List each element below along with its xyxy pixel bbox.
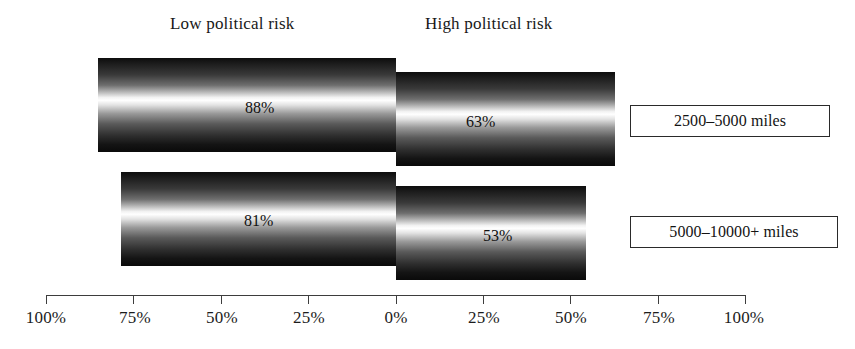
legend-label-2500-5000-miles: 2500–5000 miles xyxy=(630,105,830,137)
column-header-low-political-risk: Low political risk xyxy=(170,14,294,34)
axis-tick-right-50 xyxy=(570,295,571,304)
axis-label-right-25: 25% xyxy=(468,308,500,328)
axis-label-left-50: 50% xyxy=(206,308,238,328)
axis-tick-right-100 xyxy=(745,295,746,304)
axis-label-left-75: 75% xyxy=(119,308,151,328)
bar-value-high-risk-2500-5000: 63% xyxy=(466,113,495,131)
axis-label-center-0: 0% xyxy=(384,308,407,328)
bar-high-risk-2500-5000 xyxy=(396,72,615,166)
axis-label-right-75: 75% xyxy=(643,308,675,328)
axis-tick-left-75 xyxy=(133,295,134,304)
column-header-high-political-risk: High political risk xyxy=(425,14,553,34)
axis-label-right-100: 100% xyxy=(724,308,764,328)
bar-value-low-risk-5000-10000: 81% xyxy=(244,212,273,230)
chart-container: Low political risk High political risk 8… xyxy=(0,0,855,349)
axis-label-left-25: 25% xyxy=(293,308,325,328)
axis-tick-left-50 xyxy=(221,295,222,304)
axis-tick-center-0 xyxy=(396,295,397,304)
axis-label-right-50: 50% xyxy=(555,308,587,328)
axis-tick-left-25 xyxy=(308,295,309,304)
axis-tick-right-75 xyxy=(658,295,659,304)
bar-value-low-risk-2500-5000: 88% xyxy=(245,99,274,117)
axis-tick-left-100 xyxy=(46,295,47,304)
axis-label-left-100: 100% xyxy=(26,308,66,328)
bar-value-high-risk-5000-10000: 53% xyxy=(483,227,512,245)
legend-label-5000-10000-miles: 5000–10000+ miles xyxy=(630,216,838,248)
axis-tick-right-25 xyxy=(483,295,484,304)
